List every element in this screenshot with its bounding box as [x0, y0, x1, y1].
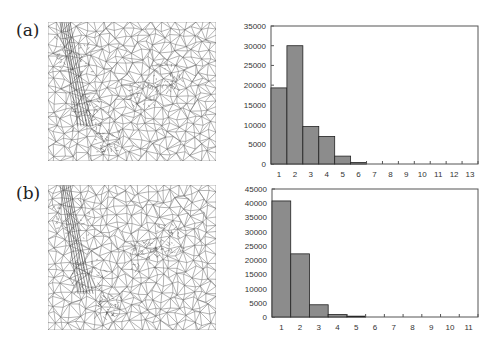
x-tick-label: 4	[335, 323, 340, 332]
x-tick-label: 10	[418, 170, 427, 179]
y-tick-label: 25000	[244, 61, 267, 70]
x-tick-label: 9	[404, 170, 409, 179]
triangular-mesh-b	[48, 185, 216, 330]
histogram-bar	[347, 316, 366, 317]
x-tick-label: 12	[450, 170, 459, 179]
y-tick-label: 10000	[244, 121, 267, 130]
x-tick-label: 4	[325, 170, 330, 179]
x-tick-label: 10	[445, 323, 454, 332]
histogram-bar	[351, 162, 367, 164]
histogram-bar	[309, 305, 328, 317]
y-tick-label: 40000	[245, 199, 268, 208]
y-tick-label: 35000	[244, 22, 267, 31]
x-tick-label: 1	[279, 323, 284, 332]
x-tick-label: 1	[277, 170, 282, 179]
x-tick-label: 3	[309, 170, 314, 179]
x-tick-label: 6	[356, 170, 361, 179]
panel-label-a: (a)	[16, 20, 39, 40]
histogram-bar	[272, 201, 291, 317]
histogram-a: 0500010000150002000025000300003500012345…	[230, 12, 489, 188]
y-tick-label: 15000	[245, 270, 268, 279]
y-tick-label: 10000	[245, 285, 268, 294]
y-tick-label: 25000	[245, 242, 268, 251]
x-tick-label: 2	[293, 170, 298, 179]
histogram-bar	[303, 127, 319, 164]
y-tick-label: 0	[263, 313, 268, 322]
x-tick-label: 5	[354, 323, 359, 332]
x-tick-label: 13	[466, 170, 475, 179]
x-tick-label: 5	[340, 170, 345, 179]
histogram-bar	[287, 46, 303, 164]
y-tick-label: 30000	[244, 42, 267, 51]
x-tick-label: 6	[373, 323, 378, 332]
y-tick-label: 30000	[245, 228, 268, 237]
triangular-mesh-a	[48, 22, 216, 161]
x-tick-label: 7	[372, 170, 377, 179]
x-tick-label: 8	[410, 323, 415, 332]
x-tick-label: 11	[434, 170, 443, 179]
x-tick-label: 9	[429, 323, 434, 332]
histogram-bar	[328, 314, 347, 317]
y-tick-label: 0	[262, 160, 267, 169]
x-tick-label: 11	[464, 323, 473, 332]
x-tick-label: 7	[392, 323, 397, 332]
y-tick-label: 20000	[244, 81, 267, 90]
x-tick-label: 3	[317, 323, 322, 332]
x-tick-label: 8	[388, 170, 393, 179]
y-tick-label: 5000	[249, 299, 267, 308]
histogram-bar	[271, 88, 287, 164]
panel-label-b: (b)	[16, 183, 40, 203]
y-tick-label: 15000	[244, 101, 267, 110]
y-tick-label: 20000	[245, 256, 268, 265]
y-tick-label: 5000	[248, 140, 266, 149]
y-tick-label: 35000	[245, 213, 268, 222]
x-tick-label: 2	[298, 323, 303, 332]
histogram-bar	[335, 156, 351, 164]
histogram-bar	[319, 136, 335, 164]
histogram-bar	[291, 254, 310, 317]
histogram-b: 0500010000150002000025000300003500040000…	[230, 182, 489, 350]
y-tick-label: 45000	[245, 185, 268, 194]
